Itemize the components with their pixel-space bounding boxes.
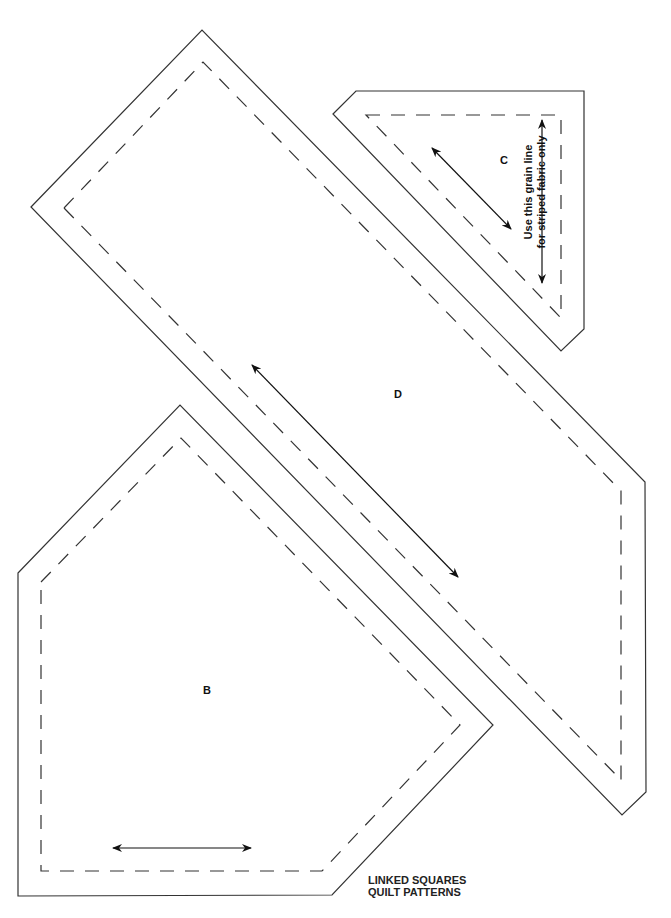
- piece-b-label: B: [203, 684, 211, 696]
- piece-b-seam-line: [41, 438, 460, 871]
- grain-note-line1: Use this grain line: [522, 122, 535, 262]
- grain-note-line2: for striped fabric only: [535, 122, 548, 262]
- pattern-drawing: [0, 0, 671, 918]
- piece-b-cut-line: [18, 405, 493, 896]
- title-line2: QUILT PATTERNS: [368, 886, 466, 898]
- piece-b: [18, 405, 493, 896]
- pattern-title: LINKED SQUARES QUILT PATTERNS: [368, 874, 466, 898]
- piece-c-label: C: [500, 154, 508, 166]
- title-line1: LINKED SQUARES: [368, 874, 466, 886]
- piece-d-grain-arrow: [252, 365, 458, 577]
- piece-d: [31, 30, 646, 815]
- piece-d-label: D: [394, 388, 402, 400]
- piece-c-grain-note: Use this grain line for striped fabric o…: [522, 122, 550, 262]
